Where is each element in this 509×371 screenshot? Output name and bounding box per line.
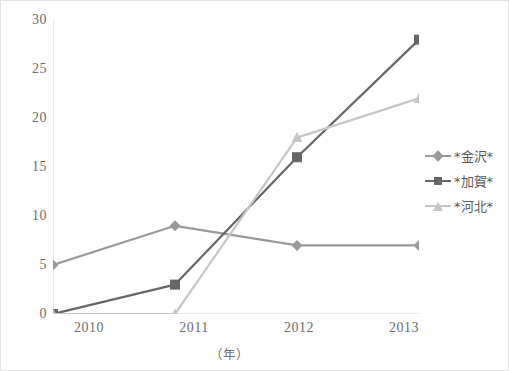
diamond-marker-icon [414, 240, 420, 251]
axis-layer [53, 20, 419, 314]
x-tick-label-2010: 2010 [54, 320, 124, 336]
square-marker-icon [170, 280, 180, 290]
diamond-marker-icon [170, 220, 181, 231]
x-tick-label-2012: 2012 [264, 320, 334, 336]
series-square [53, 35, 419, 314]
legend-label-kahoku: *河北* [454, 196, 493, 215]
series-line [53, 98, 419, 314]
plot-area [53, 20, 419, 314]
x-tick-label-2011: 2011 [159, 320, 229, 336]
triangle-marker-icon [433, 202, 443, 211]
y-tick-label-0: 0 [13, 306, 47, 322]
chart-legend: *金沢* *加賀* *河北* [425, 143, 505, 218]
triangle-marker-icon [414, 93, 420, 103]
square-marker-icon [414, 35, 419, 45]
y-tick-label-25: 25 [13, 61, 47, 77]
plot-svg [53, 20, 419, 314]
x-tick-label-2013: 2013 [369, 320, 439, 336]
diamond-marker-icon [432, 150, 443, 161]
square-marker-icon [292, 152, 302, 162]
diamond-marker-icon [292, 240, 303, 251]
diamond-marker-icon [53, 260, 59, 271]
square-marker-icon [434, 177, 442, 185]
legend-item-kanazawa[interactable]: *金沢* [425, 143, 505, 168]
series-diamond [53, 220, 419, 270]
legend-label-kaga: *加賀* [454, 171, 493, 190]
legend-item-kaga[interactable]: *加賀* [425, 168, 505, 193]
y-tick-label-5: 5 [13, 257, 47, 273]
legend-label-kanazawa: *金沢* [454, 146, 493, 165]
series-line [53, 40, 419, 314]
y-tick-label-10: 10 [13, 208, 47, 224]
legend-swatch-kanazawa [425, 150, 451, 162]
line-chart: 30 25 20 15 10 5 0 2010 2011 2012 2013 （… [0, 0, 509, 371]
y-tick-label-20: 20 [13, 110, 47, 126]
series-triangle [53, 93, 419, 314]
legend-item-kahoku[interactable]: *河北* [425, 193, 505, 218]
y-tick-label-15: 15 [13, 159, 47, 175]
legend-swatch-kahoku [425, 200, 451, 212]
x-axis-title: （年） [189, 344, 269, 363]
series-line [53, 226, 419, 265]
series-layer [53, 35, 419, 314]
legend-swatch-kaga [425, 175, 451, 187]
y-tick-label-30: 30 [13, 12, 47, 28]
